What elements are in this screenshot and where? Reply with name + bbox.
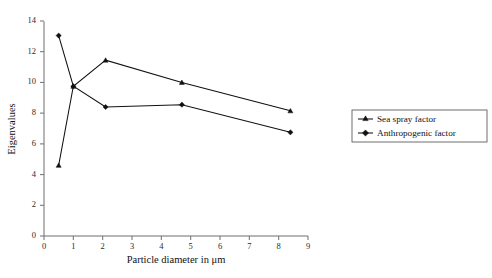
- y-tick-label: 8: [32, 107, 36, 117]
- y-tick-label: 2: [32, 199, 36, 209]
- data-point-triangle: [103, 58, 108, 62]
- eigenvalues-line-chart: 0 2 4 6 8 10 12 14 0 1 2 3 4 5 6 7 8 9: [0, 0, 492, 278]
- y-tick-label: 6: [32, 138, 36, 148]
- x-tick-label: 8: [277, 241, 281, 251]
- chart-figure: 0 2 4 6 8 10 12 14 0 1 2 3 4 5 6 7 8 9: [0, 0, 492, 278]
- x-axis-title: Particle diameter in μm: [127, 254, 226, 265]
- legend-label: Sea spray factor: [377, 114, 436, 124]
- y-axis-ticks: [40, 21, 44, 236]
- series-anthropogenic-factor: [56, 33, 293, 135]
- y-tick-label: 12: [28, 46, 37, 56]
- series-sea-spray-factor: [56, 58, 293, 168]
- data-point-diamond: [179, 102, 184, 107]
- y-axis-title: Eigenvalues: [6, 103, 17, 154]
- x-tick-label: 1: [71, 241, 75, 251]
- x-tick-label: 3: [130, 241, 134, 251]
- y-tick-label: 10: [28, 76, 37, 86]
- y-tick-label: 14: [28, 15, 37, 25]
- x-tick-label: 4: [159, 241, 164, 251]
- x-tick-label: 5: [189, 241, 193, 251]
- x-tick-label: 9: [306, 241, 310, 251]
- data-point-diamond: [103, 104, 108, 109]
- data-point-triangle: [56, 163, 61, 167]
- x-axis-ticks: [44, 236, 308, 240]
- legend-label: Anthropogenic factor: [377, 128, 456, 138]
- x-tick-label: 7: [247, 241, 251, 251]
- y-tick-label: 0: [32, 230, 36, 240]
- y-tick-label: 4: [32, 169, 37, 179]
- x-tick-label: 2: [101, 241, 105, 251]
- chart-legend: Sea spray factor Anthropogenic factor: [352, 110, 487, 142]
- series-layer: [56, 33, 293, 167]
- x-tick-label: 0: [42, 241, 46, 251]
- series-line: [59, 36, 291, 133]
- x-tick-label: 6: [218, 241, 222, 251]
- data-point-diamond: [288, 130, 293, 135]
- data-point-diamond: [56, 33, 61, 38]
- series-line: [59, 60, 291, 165]
